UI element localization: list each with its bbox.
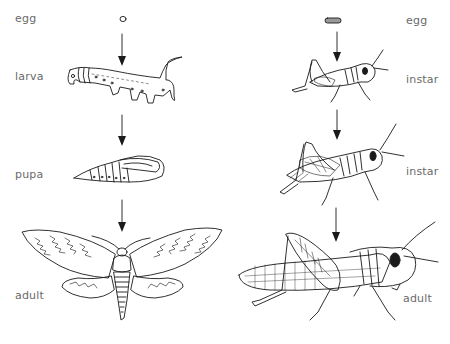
grasshopper-instar-small-icon xyxy=(292,50,388,102)
grasshopper-egg-icon xyxy=(325,18,341,23)
arrow-down-icon xyxy=(332,208,340,242)
arrow-down-icon xyxy=(118,34,126,66)
illustration-canvas xyxy=(0,0,450,344)
arrow-down-icon xyxy=(118,115,126,146)
pupa-icon xyxy=(74,156,164,182)
arrow-down-icon xyxy=(118,200,126,232)
grasshopper-instar-large-icon xyxy=(280,124,404,205)
metamorphosis-diagram: egg larva pupa adult egg instar instar a… xyxy=(0,0,450,344)
grasshopper-adult-icon xyxy=(239,222,438,320)
arrow-down-icon xyxy=(333,110,341,140)
arrow-down-icon xyxy=(333,32,341,62)
moth-egg-icon xyxy=(120,16,126,21)
moth-adult-icon xyxy=(22,228,222,320)
caterpillar-icon xyxy=(68,57,182,103)
